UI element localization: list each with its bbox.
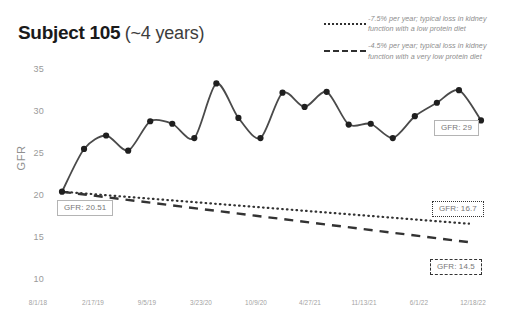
callout-start-value: GFR: 20.51 <box>57 200 113 216</box>
callout-dashed-trend-value: GFR: 14.5 <box>430 259 482 275</box>
callout-end-value: GFR: 29 <box>434 120 479 136</box>
chart-screenshot: Subject 105 (~4 years) -7.5% per year; t… <box>0 0 513 321</box>
plot-area: GFR 35 30 25 20 15 10 8/1/18 2/17/19 9/5… <box>0 0 513 321</box>
callout-dotted-trend-value: GFR: 16.7 <box>432 201 484 217</box>
